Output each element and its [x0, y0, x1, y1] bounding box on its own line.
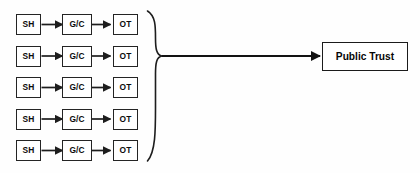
node-ot-5[interactable]: OT: [113, 140, 138, 161]
diagram-canvas: SH G/C OT SH G/C OT SH G/C OT SH G/C OT …: [0, 0, 420, 173]
node-ot-1[interactable]: OT: [113, 14, 138, 35]
node-label: Public Trust: [336, 51, 394, 62]
node-label: OT: [120, 52, 132, 60]
node-label: G/C: [69, 20, 84, 28]
node-gc-3[interactable]: G/C: [62, 77, 92, 98]
node-label: G/C: [69, 52, 84, 60]
node-sh-4[interactable]: SH: [16, 109, 41, 130]
node-sh-2[interactable]: SH: [16, 46, 41, 67]
node-gc-2[interactable]: G/C: [62, 46, 92, 67]
node-label: G/C: [69, 115, 84, 123]
node-ot-3[interactable]: OT: [113, 77, 138, 98]
node-public-trust[interactable]: Public Trust: [322, 42, 408, 71]
node-label: G/C: [69, 83, 84, 91]
node-sh-1[interactable]: SH: [16, 14, 41, 35]
node-label: OT: [120, 146, 132, 154]
node-label: OT: [120, 115, 132, 123]
node-label: G/C: [69, 146, 84, 154]
node-ot-4[interactable]: OT: [113, 109, 138, 130]
node-ot-2[interactable]: OT: [113, 46, 138, 67]
node-gc-4[interactable]: G/C: [62, 109, 92, 130]
node-gc-1[interactable]: G/C: [62, 14, 92, 35]
node-label: SH: [23, 20, 35, 28]
node-label: OT: [120, 83, 132, 91]
node-label: SH: [23, 52, 35, 60]
node-label: SH: [23, 146, 35, 154]
node-sh-5[interactable]: SH: [16, 140, 41, 161]
node-label: SH: [23, 115, 35, 123]
node-sh-3[interactable]: SH: [16, 77, 41, 98]
node-gc-5[interactable]: G/C: [62, 140, 92, 161]
aggregator-curly-brace: [148, 11, 162, 161]
node-label: SH: [23, 83, 35, 91]
node-label: OT: [120, 20, 132, 28]
